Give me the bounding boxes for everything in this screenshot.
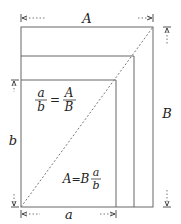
solution-equals: =	[71, 173, 80, 186]
label-B-right: B	[161, 106, 172, 121]
ratio-rhs-numerator: A	[64, 86, 74, 100]
ratio-equation: a b = A B	[35, 86, 76, 114]
label-A-top: A	[81, 11, 91, 26]
ratio-lhs-numerator: a	[37, 86, 44, 100]
solution-denominator: b	[92, 179, 99, 192]
label-a-bottom: a	[65, 207, 73, 222]
label-b-left: b	[9, 133, 17, 148]
proportional-rectangles-diagram: A B b a	[0, 0, 181, 224]
solution-coefficient: B	[80, 172, 90, 186]
solution-lhs: A	[62, 172, 72, 186]
solution-equation: A = B a b	[62, 166, 101, 192]
diagram-canvas: A B b a	[0, 0, 181, 224]
ratio-equals: =	[50, 93, 60, 107]
ratio-rhs-denominator: B	[64, 100, 74, 114]
ratio-lhs-denominator: b	[37, 100, 45, 114]
solution-numerator: a	[93, 166, 100, 179]
